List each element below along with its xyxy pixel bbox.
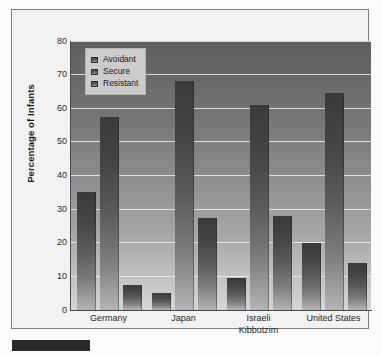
x-axis-label-group: United States: [296, 313, 371, 325]
chart-frame: 80706050403020100 Percentage of Infants …: [11, 9, 369, 329]
plot-area: Avoidant Secure Resistant: [71, 41, 371, 310]
y-axis-tick-label: 30: [37, 205, 67, 214]
bar: [100, 117, 119, 310]
y-axis-ticks: 80706050403020100: [34, 41, 67, 310]
bar: [302, 243, 321, 310]
x-axis-label-group: Germany: [71, 313, 146, 325]
x-axis-labels: GermanyJapanIsraeliKibbutzimUnited State…: [71, 313, 371, 343]
bar: [152, 293, 171, 310]
bar: [175, 81, 194, 310]
y-axis-tick-label: 60: [37, 104, 67, 113]
bar: [77, 192, 96, 310]
bar: [123, 285, 142, 310]
bar-group: [146, 41, 221, 310]
y-axis-title: Percentage of Infants: [25, 54, 36, 214]
y-axis-tick-label: 10: [37, 272, 67, 281]
y-axis-tick-label: 50: [37, 137, 67, 146]
x-axis-tick-label: Japan: [146, 313, 221, 325]
chart-legend: Avoidant Secure Resistant: [85, 48, 146, 95]
y-axis-tick-label: 40: [37, 171, 67, 180]
y-axis-tick-label: 20: [37, 238, 67, 247]
x-axis-tick-label: Germany: [71, 313, 146, 325]
x-axis-label-group: IsraeliKibbutzim: [221, 313, 296, 336]
bar: [325, 93, 344, 310]
bar-group: [296, 41, 371, 310]
legend-item-label: Avoidant: [103, 55, 136, 64]
legend-swatch-icon: [91, 57, 98, 63]
legend-item: Avoidant: [91, 54, 138, 65]
bar-group: [221, 41, 296, 310]
x-axis-tick-label: Kibbutzim: [221, 325, 296, 337]
caption-bar: [12, 340, 90, 351]
bar: [198, 218, 217, 310]
x-axis-line: [70, 310, 372, 311]
legend-swatch-icon: [91, 69, 98, 75]
legend-item-label: Resistant: [103, 79, 138, 88]
bar: [348, 263, 367, 310]
chart-figure: 80706050403020100 Percentage of Infants …: [0, 0, 381, 356]
x-axis-label-group: Japan: [146, 313, 221, 325]
bar: [227, 278, 246, 310]
y-axis-tick-label: 80: [37, 37, 67, 46]
bar: [273, 216, 292, 310]
legend-item: Secure: [91, 66, 138, 77]
y-axis-tick-label: 0: [37, 306, 67, 315]
x-axis-tick-label: United States: [296, 313, 371, 325]
legend-item: Resistant: [91, 78, 138, 89]
y-axis-tick-label: 70: [37, 70, 67, 79]
legend-swatch-icon: [91, 81, 98, 87]
legend-item-label: Secure: [103, 67, 130, 76]
bar: [250, 105, 269, 310]
x-axis-tick-label: Israeli: [221, 313, 296, 325]
